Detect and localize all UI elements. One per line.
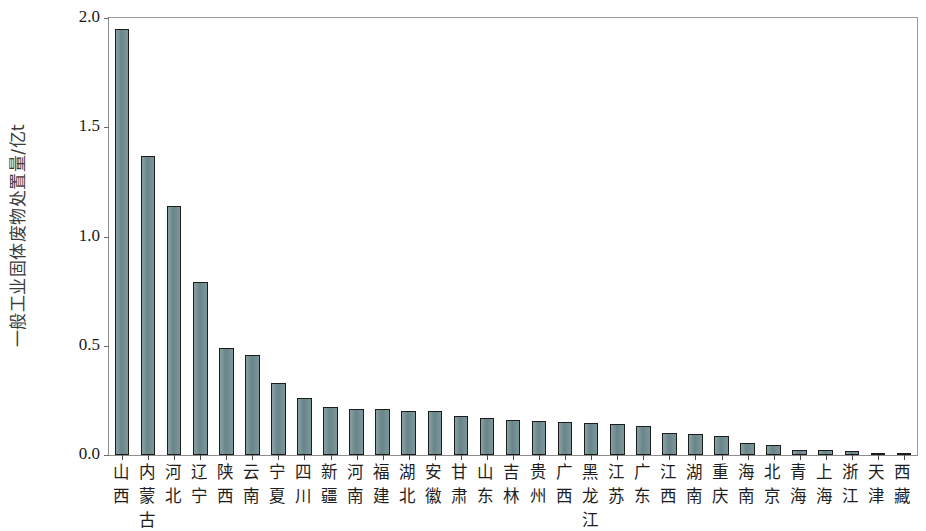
bar [271, 383, 286, 455]
x-axis-tick [148, 455, 149, 460]
y-axis-title-text: 一般工业固体废物处置量/亿t [5, 123, 30, 346]
bar [740, 443, 755, 455]
bar [245, 355, 260, 456]
y-axis-tick [104, 127, 109, 128]
x-axis-tick [591, 455, 592, 460]
bar [688, 434, 703, 455]
bar [480, 418, 495, 455]
y-axis-title: 一般工业固体废物处置量/亿t [0, 0, 34, 470]
x-axis-tick [852, 455, 853, 460]
y-axis-tick-label: 1.0 [54, 226, 100, 246]
bar [610, 424, 625, 455]
y-axis-tick-label: 0.0 [54, 444, 100, 464]
x-axis-tick [331, 455, 332, 460]
x-axis-tick [669, 455, 670, 460]
x-axis-tick [304, 455, 305, 460]
bar [662, 433, 677, 455]
x-axis-tick [174, 455, 175, 460]
x-axis-tick [904, 455, 905, 460]
bar [141, 156, 156, 455]
bar [636, 426, 651, 455]
y-axis-tick-label: 2.0 [54, 7, 100, 27]
x-axis-tick [617, 455, 618, 460]
bar [401, 411, 416, 455]
x-axis-tick [878, 455, 879, 460]
x-axis-tick [565, 455, 566, 460]
bar [714, 436, 729, 455]
x-axis-tick [800, 455, 801, 460]
y-axis-tick-label: 0.5 [54, 335, 100, 355]
x-axis-tick [435, 455, 436, 460]
y-axis-tick [104, 18, 109, 19]
bar [193, 282, 208, 455]
y-axis-tick-label: 1.5 [54, 116, 100, 136]
bar [349, 409, 364, 455]
y-axis-tick [104, 237, 109, 238]
plot-area [108, 17, 918, 456]
y-axis-tick [104, 455, 109, 456]
x-axis-tick [722, 455, 723, 460]
x-axis-tick [383, 455, 384, 460]
x-axis-tick [461, 455, 462, 460]
bar [115, 29, 130, 455]
x-axis-tick [748, 455, 749, 460]
x-axis-tick [252, 455, 253, 460]
bar [584, 423, 599, 455]
bar [375, 409, 390, 455]
bar [428, 411, 443, 455]
x-axis-tick [487, 455, 488, 460]
bar [532, 421, 547, 455]
bar [558, 422, 573, 455]
x-axis-tick [357, 455, 358, 460]
bar [297, 398, 312, 455]
y-axis-tick-labels: 0.00.51.01.52.0 [44, 0, 100, 531]
x-axis-tick [226, 455, 227, 460]
x-axis-tick [122, 455, 123, 460]
x-axis-tick [695, 455, 696, 460]
bar [506, 420, 521, 455]
bar [454, 416, 469, 455]
bar-series [109, 18, 917, 455]
x-axis-tick [200, 455, 201, 460]
bar [323, 407, 338, 455]
x-axis-tick [278, 455, 279, 460]
x-axis-category-label: 西藏 [887, 461, 919, 509]
y-axis-tick [104, 346, 109, 347]
x-axis-tick [513, 455, 514, 460]
x-axis-tick [643, 455, 644, 460]
x-axis-tick [774, 455, 775, 460]
bar [766, 445, 781, 455]
bar [167, 206, 182, 455]
x-axis-tick [409, 455, 410, 460]
x-axis-category-labels: 山西内蒙古河北辽宁陕西云南宁夏四川新疆河南福建湖北安徽甘肃山东吉林贵州广西黑龙江… [108, 461, 918, 531]
bar [219, 348, 234, 455]
x-axis-tick [826, 455, 827, 460]
x-axis-tick [539, 455, 540, 460]
chart-figure: 一般工业固体废物处置量/亿t 0.00.51.01.52.0 山西内蒙古河北辽宁… [0, 0, 926, 531]
